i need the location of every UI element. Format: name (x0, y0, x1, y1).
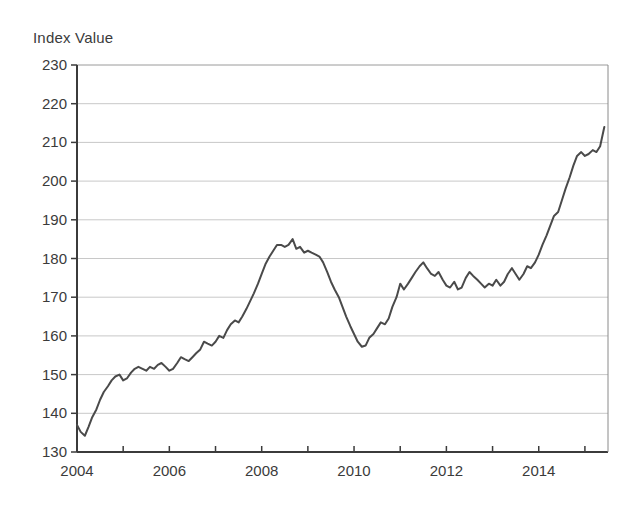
y-axis-tick-label: 130 (27, 443, 67, 460)
x-axis-tick-label: 2014 (511, 462, 567, 479)
x-axis-tick-label: 2012 (418, 462, 474, 479)
x-axis-tick-label: 2004 (49, 462, 105, 479)
plot-area (0, 0, 642, 513)
data-series-line (77, 127, 604, 436)
y-axis-tick-label: 190 (27, 211, 67, 228)
y-axis-tick-label: 200 (27, 172, 67, 189)
gridlines-group (77, 65, 608, 413)
x-axis-tick-label: 2008 (234, 462, 290, 479)
y-axis-tick-label: 220 (27, 95, 67, 112)
y-axis-tick-label: 140 (27, 404, 67, 421)
line-chart: Index Value 1301401501601701801902002102… (0, 0, 642, 513)
x-axis-tick-label: 2006 (141, 462, 197, 479)
y-axis-tick-label: 150 (27, 366, 67, 383)
y-axis-tick-label: 170 (27, 288, 67, 305)
y-axis-tick-label: 230 (27, 56, 67, 73)
y-axis-tick-label: 180 (27, 250, 67, 267)
x-axis-tick-label: 2010 (326, 462, 382, 479)
y-axis-tick-label: 210 (27, 133, 67, 150)
y-axis-tick-label: 160 (27, 327, 67, 344)
